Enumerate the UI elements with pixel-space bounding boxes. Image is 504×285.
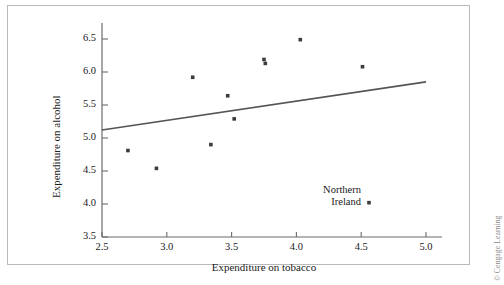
annotation-line-1: Northern xyxy=(303,184,361,196)
data-point xyxy=(155,167,159,171)
annotation-line-2: Ireland xyxy=(303,196,361,208)
y-tick-label: 5.0 xyxy=(66,132,96,143)
figure-frame: 3.54.04.55.05.56.06.5 2.53.03.54.04.55.0… xyxy=(7,5,470,265)
x-tick-label: 3.0 xyxy=(151,242,183,253)
data-point xyxy=(232,117,236,121)
data-point xyxy=(367,201,371,205)
data-point xyxy=(361,65,365,69)
data-point xyxy=(226,94,230,98)
data-point xyxy=(126,149,130,153)
y-tick-label: 3.5 xyxy=(66,231,96,242)
data-point xyxy=(262,58,266,62)
x-axis-title: Expenditure on tobacco xyxy=(62,261,466,273)
x-tick-label: 4.5 xyxy=(345,242,377,253)
y-tick-label: 5.5 xyxy=(66,99,96,110)
data-point xyxy=(209,143,213,147)
x-tick-label: 2.5 xyxy=(86,242,118,253)
regression-line xyxy=(102,82,426,130)
y-tick-label: 4.5 xyxy=(66,165,96,176)
scatter-plot: 3.54.04.55.05.56.06.5 2.53.03.54.04.55.0… xyxy=(8,6,471,266)
annotation-northern-ireland: Northern Ireland xyxy=(303,184,361,209)
regression-line-group xyxy=(102,82,426,130)
tick-marks-group xyxy=(102,39,426,237)
y-tick-label: 6.5 xyxy=(66,33,96,44)
copyright-notice: © Cengage Learning xyxy=(493,216,502,281)
x-tick-label: 4.0 xyxy=(280,242,312,253)
y-axis-title: Expenditure on alcohol xyxy=(50,95,62,198)
axes-group xyxy=(102,23,442,237)
x-tick-label: 5.0 xyxy=(410,242,442,253)
data-point xyxy=(264,62,268,66)
y-tick-label: 4.0 xyxy=(66,198,96,209)
x-tick-label: 3.5 xyxy=(216,242,248,253)
data-point xyxy=(191,75,195,79)
data-point xyxy=(298,38,302,42)
y-tick-label: 6.0 xyxy=(66,66,96,77)
